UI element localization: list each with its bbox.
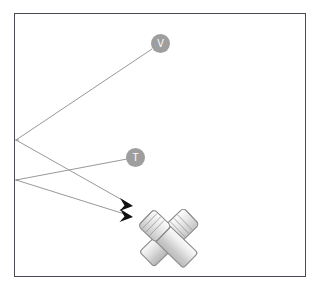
node-v-label: V [157, 38, 164, 49]
figure-canvas: V T [0, 0, 322, 291]
node-t-label: T [132, 152, 138, 163]
node-badge-t-icon[interactable]: T [126, 148, 145, 167]
node-badge-v-icon[interactable]: V [151, 34, 170, 53]
